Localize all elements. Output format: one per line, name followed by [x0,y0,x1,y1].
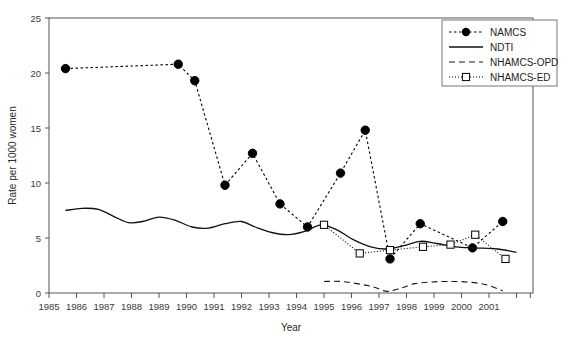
series-namcs [61,60,507,263]
y-tick-label: 0 [36,288,41,299]
x-tick-label: 1993 [258,301,279,312]
legend-sample-marker [462,28,470,36]
x-tick-label: 1988 [121,301,142,312]
data-point [276,200,284,208]
x-tick-label: 1999 [423,301,444,312]
chart-figure: 0510152025198519861987198819891990199119… [0,0,580,340]
x-tick-label: 1996 [341,301,362,312]
legend-label: NDTI [490,42,513,53]
data-point [386,255,394,263]
x-tick-label: 1986 [66,301,87,312]
x-tick-label: 1987 [93,301,114,312]
data-point [472,231,479,238]
legend: NAMCSNDTINHAMCS-OPDNHAMCS-ED [442,20,558,86]
data-point [174,60,182,68]
x-tick-label: 1995 [313,301,334,312]
y-tick-label: 20 [30,68,41,79]
series-line [324,281,503,291]
data-point [499,217,507,225]
data-point [336,169,344,177]
x-tick-label: 1992 [231,301,252,312]
x-tick-label: 1989 [148,301,169,312]
legend-label: NAMCS [490,27,526,38]
y-tick-label: 15 [30,123,41,134]
data-point [191,77,199,85]
x-tick-label: 1985 [38,301,59,312]
y-tick-label: 5 [36,233,41,244]
y-tick-label: 25 [30,13,41,24]
y-axis-title: Rate per 1000 women [7,106,18,204]
data-point [221,181,229,189]
x-tick-label: 1997 [368,301,389,312]
legend-label: NHAMCS-OPD [490,57,558,68]
data-point [502,255,509,262]
line-chart: 0510152025198519861987198819891990199119… [0,0,580,340]
data-point [419,243,426,250]
y-tick-label: 10 [30,178,41,189]
data-point [386,247,393,254]
x-tick-label: 1994 [286,301,307,312]
x-tick-label: 2000 [451,301,472,312]
data-point [416,220,424,228]
data-point [320,221,327,228]
data-point [356,250,363,257]
series-nhamcs-opd [324,281,503,291]
x-tick-label: 1990 [176,301,197,312]
x-tick-label: 1998 [396,301,417,312]
x-axis-title: Year [281,322,302,333]
data-point [361,126,369,134]
series-line [66,64,503,259]
data-point [61,64,69,72]
x-tick-label: 2001 [478,301,499,312]
data-point [447,241,454,248]
x-tick-label: 1991 [203,301,224,312]
legend-label: NHAMCS-ED [490,72,551,83]
legend-sample-marker [462,73,469,80]
data-point [248,149,256,157]
